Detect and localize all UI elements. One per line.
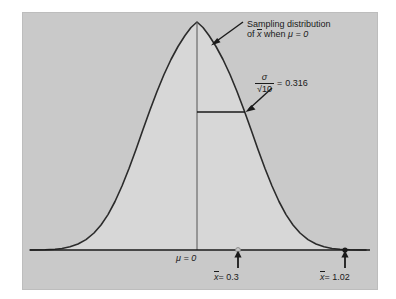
distribution-plot xyxy=(0,0,396,299)
sigma-arrow-head xyxy=(246,105,256,112)
sampling-distribution-callout: Sampling distribution of x when μ = 0 xyxy=(247,19,331,40)
axis-label-xbar-102: x= 1.02 xyxy=(320,272,350,282)
xbar-value-1: = 0.3 xyxy=(219,272,239,282)
sigma-fraction: σ √10 xyxy=(255,73,274,94)
standard-error-value: 0.316 xyxy=(285,78,308,88)
equals-sign: = xyxy=(277,78,282,88)
sigma-numerator: σ xyxy=(260,73,269,83)
axis-label-xbar-03: x= 0.3 xyxy=(214,272,239,282)
curve-fill xyxy=(30,22,366,250)
x-bar-symbol: x xyxy=(257,29,262,39)
figure-container: Sampling distribution of x when μ = 0 σ … xyxy=(0,0,396,299)
radicand: 10 xyxy=(262,84,272,94)
overbar xyxy=(214,271,219,272)
overbar xyxy=(257,29,262,30)
overbar xyxy=(320,271,325,272)
mu-equals-zero: μ = 0 xyxy=(288,29,308,39)
axis-label-mu: μ = 0 xyxy=(176,253,196,263)
tick-arrow-head-2 xyxy=(341,251,348,258)
xbar-value-2: = 1.02 xyxy=(325,272,350,282)
tick-arrow-head-1 xyxy=(234,251,241,258)
callout-line-1: Sampling distribution xyxy=(247,19,331,29)
x-bar-symbol: x xyxy=(320,272,325,282)
callout-line-2: of x when μ = 0 xyxy=(247,29,331,39)
standard-error-annotation: σ √10 = 0.316 xyxy=(255,73,308,94)
x-bar-symbol: x xyxy=(214,272,219,282)
sigma-denominator: √10 xyxy=(255,83,274,94)
